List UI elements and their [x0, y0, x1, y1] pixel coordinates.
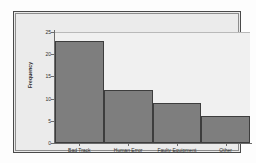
chart-screenshot: Frequency 0510152025 Bad TrackHuman Erro… [0, 0, 256, 163]
bar[interactable] [153, 103, 202, 143]
y-tick-mark [51, 54, 54, 55]
x-tick-mark [177, 143, 178, 146]
y-tick-mark [51, 32, 54, 33]
x-tick-mark [79, 143, 80, 146]
bars-layer [55, 32, 250, 143]
y-tick-mark [51, 143, 54, 144]
bar-cell [201, 32, 250, 143]
y-tick-mark [51, 76, 54, 77]
x-tick-label: Other [201, 147, 250, 153]
bar-cell [153, 32, 202, 143]
x-tick-label: Faulty Equipment [153, 147, 202, 153]
bar[interactable] [201, 116, 250, 143]
y-tick-label: 15 [36, 73, 51, 79]
bar[interactable] [55, 41, 104, 143]
y-axis-title: Frequency [27, 45, 33, 105]
x-tick-label: Human Error [104, 147, 153, 153]
x-axis-line [54, 143, 252, 144]
x-tick-mark [128, 143, 129, 146]
y-tick-label: 5 [36, 118, 51, 124]
x-tick-mark [226, 143, 227, 146]
y-tick-mark [51, 121, 54, 122]
figure-inner-frame: Frequency 0510152025 Bad TrackHuman Erro… [15, 13, 239, 151]
y-tick-label: 10 [36, 96, 51, 102]
x-tick-label: Bad Track [55, 147, 104, 153]
y-tick-label: 0 [36, 140, 51, 146]
bar-cell [55, 32, 104, 143]
y-tick-mark [51, 99, 54, 100]
figure-frame: Frequency 0510152025 Bad TrackHuman Erro… [13, 11, 241, 153]
y-tick-label: 20 [36, 51, 51, 57]
bar[interactable] [104, 90, 153, 143]
bar-cell [104, 32, 153, 143]
y-tick-label: 25 [36, 29, 51, 35]
